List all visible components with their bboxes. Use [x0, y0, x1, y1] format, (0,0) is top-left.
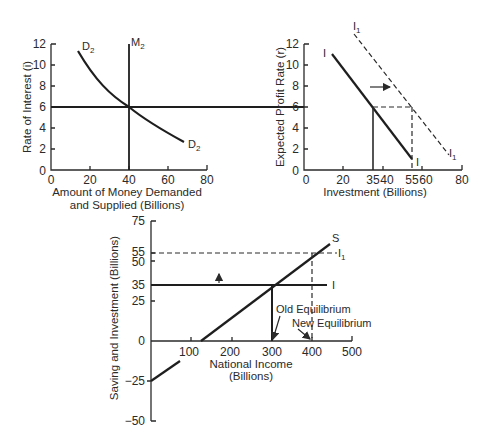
x-tick-80: 80: [455, 173, 469, 187]
new-equilibrium-label: New Equilibrium: [292, 317, 371, 329]
d2-label-bottom: D2: [188, 138, 201, 153]
i1-label-top: I1: [353, 20, 361, 35]
x-ticks: 100 200 300 400 500: [179, 336, 362, 359]
s-saving-line-lower: [151, 361, 180, 381]
d2-demand-curve: [78, 51, 184, 142]
y-axis-label: Saving and Investment (Billions): [108, 236, 120, 400]
y-tick-25: 25: [132, 294, 146, 308]
x-tick-20: 20: [83, 173, 97, 187]
y-tick-neg50: −50: [125, 414, 146, 428]
old-equilibrium-pointer: [273, 316, 280, 339]
figure: 12 10 8 6 4 2 0 0 20 40 60 80 Rate of In…: [0, 0, 485, 438]
y-tick-8: 8: [39, 79, 46, 93]
y-tick-12: 12: [286, 37, 300, 51]
x-tick-35: 35: [366, 173, 380, 187]
i-label-top: I: [323, 47, 326, 59]
y-tick-0: 0: [39, 164, 46, 178]
i1-label-bottom: I1: [449, 147, 457, 162]
m2-label: M2: [131, 36, 145, 51]
y-tick-12: 12: [33, 37, 47, 51]
y-tick-4: 4: [39, 121, 46, 135]
i1-investment-line: [354, 34, 449, 155]
s-label: S: [332, 232, 339, 244]
x-axis-label: Investment (Billions): [323, 186, 427, 198]
saving-investment-chart: 75 55 50 35 25 0 −25 −50 100 200 300 400…: [108, 214, 371, 428]
y-tick-6: 6: [39, 100, 46, 114]
x-axis-label-line1: Amount of Money Demanded: [52, 186, 202, 198]
x-tick-0: 0: [303, 173, 310, 187]
x-tick-100: 100: [179, 345, 199, 359]
y-tick-4: 4: [292, 121, 299, 135]
i-label-bottom: I: [416, 156, 419, 168]
i1-label: I1: [338, 247, 346, 262]
x-axis-label-line2: and Supplied (Billions): [70, 199, 185, 211]
y-tick-6: 6: [292, 100, 299, 114]
x-axis-label-line2: (Billions): [229, 370, 273, 382]
x-ticks: 0 20 35 40 55 60 80: [303, 165, 469, 187]
y-axis-label: Expected Profit Rate (r): [274, 47, 286, 167]
x-tick-60: 60: [419, 173, 433, 187]
y-tick-10: 10: [33, 58, 47, 72]
y-axis-label: Rate of Interest (i): [21, 61, 33, 153]
x-tick-80: 80: [200, 173, 214, 187]
d2-label-top: D2: [82, 40, 95, 55]
y-tick-0: 0: [292, 164, 299, 178]
old-equilibrium-label: Old Equilibrium: [276, 303, 351, 315]
y-tick-10: 10: [286, 58, 300, 72]
x-tick-400: 400: [302, 345, 322, 359]
x-axis-label-line1: National Income: [209, 358, 292, 370]
x-tick-55: 55: [405, 173, 419, 187]
y-tick-2: 2: [39, 142, 46, 156]
x-tick-200: 200: [220, 345, 240, 359]
x-tick-500: 500: [342, 345, 362, 359]
x-ticks: 0 20 40 60 80: [48, 165, 214, 187]
y-tick-neg25: −25: [125, 374, 146, 388]
y-tick-2: 2: [292, 142, 299, 156]
x-tick-20: 20: [336, 173, 350, 187]
y-tick-8: 8: [292, 79, 299, 93]
y-tick-0: 0: [138, 334, 145, 348]
x-tick-40: 40: [380, 173, 394, 187]
y-tick-75: 75: [132, 214, 146, 228]
money-market-chart: 12 10 8 6 4 2 0 0 20 40 60 80 Rate of In…: [21, 36, 304, 211]
x-tick-0: 0: [48, 173, 55, 187]
x-tick-40: 40: [122, 173, 136, 187]
y-tick-35: 35: [132, 278, 146, 292]
x-tick-60: 60: [161, 173, 175, 187]
x-tick-300: 300: [262, 345, 282, 359]
new-equilibrium-pointer: [298, 329, 310, 339]
investment-demand-chart: 12 10 8 6 4 2 0 0 20 35 40 55 60 80 Expe…: [274, 20, 469, 198]
y-tick-50: 50: [132, 255, 146, 269]
i-label: I: [332, 279, 335, 291]
